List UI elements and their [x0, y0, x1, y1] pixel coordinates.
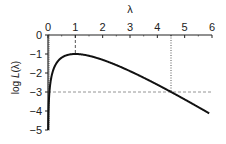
y-axis-label-text: log L(λ)	[10, 61, 21, 94]
x-tick-label: 4	[154, 21, 160, 33]
guide-lines	[48, 35, 212, 92]
x-tick-label: 1	[72, 21, 78, 33]
y-tick-label: −2	[29, 67, 42, 79]
y-tick-label: −4	[29, 105, 42, 117]
x-tick-label: 6	[209, 21, 215, 33]
x-axis-label-text: λ	[127, 3, 133, 15]
axes: 01234560−1−2−3−4−5	[29, 21, 215, 136]
x-tick-label: 3	[127, 21, 133, 33]
x-tick-label: 0	[45, 21, 51, 33]
x-tick-label: 5	[182, 21, 188, 33]
y-axis-label: log L(λ)	[10, 61, 21, 94]
x-axis-label: λ	[127, 3, 133, 15]
y-tick-label: −5	[29, 124, 42, 136]
x-tick-label: 2	[100, 21, 106, 33]
y-tick-label: −3	[29, 86, 42, 98]
y-tick-label: −1	[29, 48, 42, 60]
y-tick-label: 0	[36, 29, 42, 41]
log-likelihood-chart: λ log L(λ) 01234560−1−2−3−4−5	[0, 0, 226, 144]
